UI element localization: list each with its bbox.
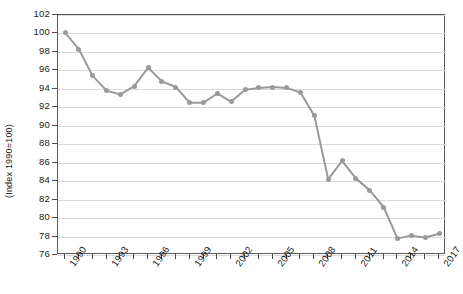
x-axis-tick-mark xyxy=(383,254,384,259)
y-axis-tick-mark xyxy=(52,236,57,237)
x-axis-tick-mark xyxy=(272,254,273,259)
y-axis-tick-label: 92 xyxy=(20,100,50,111)
data-point-marker xyxy=(118,92,123,97)
x-axis-tick-mark xyxy=(299,254,300,259)
y-axis-tick-mark xyxy=(52,125,57,126)
data-point-marker xyxy=(312,113,317,118)
y-axis-tick-mark xyxy=(52,162,57,163)
y-axis-tick-label: 90 xyxy=(20,119,50,130)
y-axis-tick-mark xyxy=(52,69,57,70)
x-axis-tick-mark xyxy=(396,254,397,259)
data-point-marker xyxy=(63,30,68,35)
data-point-marker xyxy=(298,90,303,95)
series-line-index xyxy=(58,15,446,255)
data-point-marker xyxy=(243,87,248,92)
data-point-marker xyxy=(395,236,400,241)
y-axis-tick-mark xyxy=(52,180,57,181)
data-point-marker xyxy=(340,158,345,163)
x-axis-tick-mark xyxy=(189,254,190,259)
data-point-marker xyxy=(173,85,178,90)
y-axis-tick-label: 94 xyxy=(20,82,50,93)
y-axis-tick-mark xyxy=(52,14,57,15)
data-point-marker xyxy=(381,205,386,210)
y-axis-tick-label: 88 xyxy=(20,137,50,148)
x-axis-tick-mark xyxy=(424,254,425,259)
y-axis-tick-mark xyxy=(52,32,57,33)
data-point-marker xyxy=(409,233,414,238)
x-axis-tick-mark xyxy=(92,254,93,259)
y-axis-tick-mark xyxy=(52,199,57,200)
y-axis-tick-label: 96 xyxy=(20,63,50,74)
x-axis-tick-mark xyxy=(133,254,134,259)
y-axis-tick-label: 84 xyxy=(20,174,50,185)
x-axis-tick-mark xyxy=(355,254,356,259)
y-axis-tick-mark xyxy=(52,106,57,107)
y-axis-tick-mark xyxy=(52,217,57,218)
data-point-marker xyxy=(215,91,220,96)
x-axis-tick-mark xyxy=(64,254,65,259)
x-axis-tick-mark xyxy=(106,254,107,259)
y-axis-tick-label: 80 xyxy=(20,211,50,222)
y-axis-tick-label: 100 xyxy=(20,26,50,37)
x-axis-tick-mark xyxy=(438,254,439,259)
data-point-marker xyxy=(326,177,331,182)
x-axis-tick-mark xyxy=(341,254,342,259)
plot-area xyxy=(57,14,445,254)
x-axis-tick-mark xyxy=(313,254,314,259)
data-point-marker xyxy=(229,99,234,104)
y-axis-tick-label: 82 xyxy=(20,193,50,204)
y-axis-tick-label: 78 xyxy=(20,230,50,241)
y-axis-title: (Index 1990=100) xyxy=(4,124,14,198)
y-axis-tick-mark xyxy=(52,51,57,52)
x-axis-tick-mark xyxy=(230,254,231,259)
y-axis-tick-label: 76 xyxy=(20,248,50,259)
x-axis-tick-mark xyxy=(175,254,176,259)
data-point-marker xyxy=(270,85,275,90)
x-axis-tick-mark xyxy=(147,254,148,259)
data-point-marker xyxy=(132,84,137,89)
data-point-marker xyxy=(437,231,442,236)
data-point-marker xyxy=(423,235,428,240)
y-axis-tick-mark xyxy=(52,254,57,255)
x-axis-tick-mark xyxy=(216,254,217,259)
x-axis-tick-mark xyxy=(258,254,259,259)
data-point-marker xyxy=(146,65,151,70)
y-axis-tick-mark xyxy=(52,143,57,144)
y-axis-tick-mark xyxy=(52,88,57,89)
y-axis-tick-label: 102 xyxy=(20,8,50,19)
y-axis-tick-label: 98 xyxy=(20,45,50,56)
y-axis-tick-label: 86 xyxy=(20,156,50,167)
